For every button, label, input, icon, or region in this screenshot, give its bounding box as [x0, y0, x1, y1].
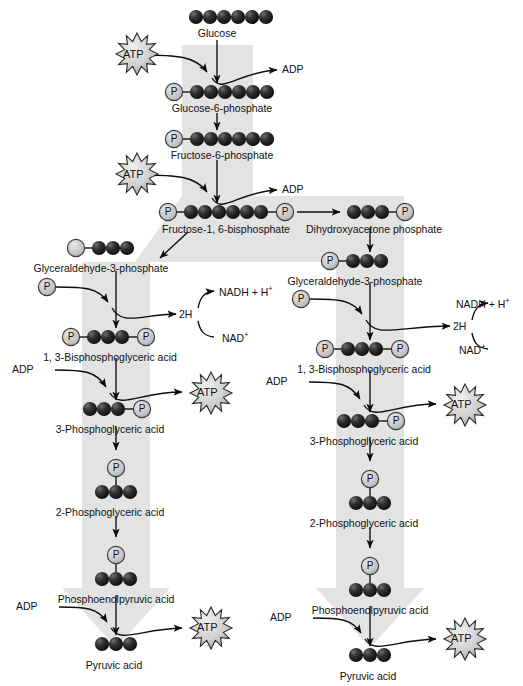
phosphate-label-bpg-right-a: P: [322, 344, 329, 354]
atp-label-right-2: ATP: [451, 633, 472, 644]
two-h-label-right: 2H: [453, 321, 466, 332]
atp-label-1: ATP: [123, 49, 144, 60]
molecule-glucose: [189, 10, 273, 24]
adp-label-left-1: ADP: [12, 364, 34, 375]
label-pep-right: Phosphoenolpyruvic acid: [312, 605, 429, 616]
reaction-curve-adp-out-2: [212, 190, 277, 204]
phosphate-label-fbp-right: P: [282, 207, 289, 217]
redox-curve-nadh-left: [198, 291, 214, 308]
adp-label-right-2: ADP: [270, 612, 292, 623]
molecule-pyruvate-left: [95, 637, 137, 651]
molecule-pyruvate-right: [349, 648, 391, 662]
redox-curve-nad-left: [198, 321, 214, 337]
reaction-curve-adp-in-left-1: [55, 370, 106, 387]
label-fructose-1-6-bisphosphate: Fructose-1, 6-bisphosphate: [162, 224, 290, 235]
atp-label-left-2: ATP: [197, 622, 218, 633]
reaction-curve-adp-out-1: [212, 70, 277, 84]
atp-label-left-1: ATP: [197, 387, 218, 398]
label-g3p-right: Glyceraldehyde-3-phosphate: [288, 276, 423, 287]
atp-label-2: ATP: [123, 169, 144, 180]
label-pyruvate-right: Pyruvic acid: [340, 671, 397, 682]
reaction-curve-phosphate-in-left: [56, 287, 108, 302]
label-bpg-left: 1, 3-Bisphosphoglyceric acid: [43, 352, 177, 363]
phosphate-label-bpg-left-a: P: [68, 332, 75, 342]
label-g3p-left: Glyceraldehyde-3-phosphate: [34, 263, 169, 274]
phosphate-label-right-input: P: [298, 294, 305, 304]
adp-label-1: ADP: [282, 64, 304, 75]
adp-label-left-2: ADP: [16, 601, 38, 612]
phosphate-label-bpg-left-b: P: [143, 332, 150, 342]
molecule-fructose-1-6-bisphosphate: [159, 203, 293, 220]
nadh-label-left: NADH + H+: [219, 285, 273, 297]
molecule-glucose-6-phosphate: [165, 83, 274, 100]
reaction-curve-atp-out-right-2: [365, 639, 436, 646]
nadh-label-right: NADH + H+: [456, 297, 510, 309]
label-pyruvate-left: Pyruvic acid: [86, 660, 143, 671]
label-pep-left: Phosphoenolpyruvic acid: [58, 594, 175, 605]
phosphate-label-left-input: P: [44, 282, 51, 292]
label-2pg-right: 2-Phosphoglyceric acid: [310, 518, 419, 529]
atp-label-right-1: ATP: [451, 399, 472, 410]
label-dhap: Dihydroxyacetone phosphate: [306, 224, 442, 235]
label-fructose-6-phosphate: Fructose-6-phosphate: [171, 150, 274, 161]
two-h-label-left: 2H: [179, 309, 192, 320]
reaction-curve-adp-in-right-1: [309, 382, 360, 399]
reaction-curve-atp-out-left-2: [111, 628, 182, 635]
molecule-g3p-left: [67, 239, 134, 256]
phosphate-label-pep-right: P: [367, 561, 374, 571]
adp-label-2: ADP: [282, 184, 304, 195]
reaction-curve-phosphate-in-right: [310, 299, 362, 314]
phosphate-label-g3p-right: P: [327, 256, 334, 266]
phosphate-label-3pg-right: P: [393, 416, 400, 426]
reaction-arrow-fbp-to-g3p-left: [160, 232, 188, 258]
phosphate-label-2pg-left: P: [113, 463, 120, 473]
nad-label-left: NAD+: [222, 331, 249, 343]
nad-label-right: NAD+: [459, 343, 486, 355]
label-glucose-6-phosphate: Glucose-6-phosphate: [172, 103, 272, 114]
label-3pg-right: 3-Phosphoglyceric acid: [310, 436, 419, 447]
phosphate-label-f6p: P: [171, 134, 178, 144]
reaction-curve-2h-out-right: [366, 320, 450, 330]
reaction-curve-atp-out-left-1: [110, 392, 182, 400]
reaction-curve-adp-in-right-2: [313, 618, 361, 633]
phosphate-label-bpg-right-b: P: [397, 344, 404, 354]
phosphate-label-2pg-right: P: [367, 474, 374, 484]
phosphate-label-fbp-left: P: [165, 207, 172, 217]
label-3pg-left: 3-Phosphoglyceric acid: [56, 424, 165, 435]
phosphate-label-dhap: P: [402, 207, 409, 217]
label-2pg-left: 2-Phosphoglyceric acid: [56, 507, 165, 518]
label-bpg-right: 1, 3-Bisphosphoglyceric acid: [297, 364, 431, 375]
phosphate-label-pep-left: P: [113, 550, 120, 560]
molecule-fructose-6-phosphate: [165, 130, 274, 147]
reaction-curve-2h-out-left: [112, 308, 176, 318]
glycolysis-diagram: Glucose Glucose-6-phosphate Fructose-6-p…: [0, 0, 523, 686]
reaction-curve-adp-in-left-2: [59, 607, 107, 622]
molecule-bpg-right: [316, 340, 408, 357]
adp-label-right-1: ADP: [266, 376, 288, 387]
molecule-bpg-left: [62, 328, 154, 345]
phosphate-label-3pg-left: P: [139, 404, 146, 414]
reaction-curve-atp-out-right-1: [364, 404, 436, 412]
label-glucose: Glucose: [198, 28, 237, 39]
phosphate-label-g6p: P: [171, 87, 178, 97]
